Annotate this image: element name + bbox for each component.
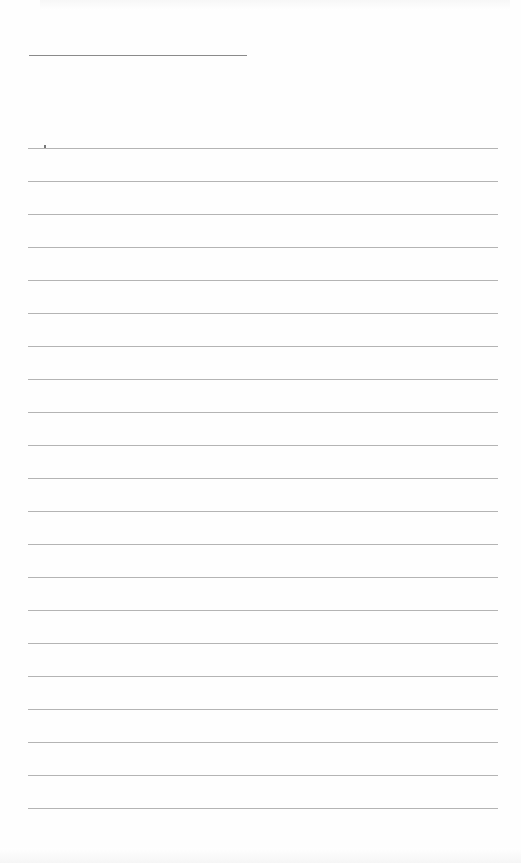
ruled-line [28, 577, 498, 578]
ruled-line [28, 445, 498, 446]
title-underline [29, 55, 247, 56]
ruled-line [28, 313, 498, 314]
ruled-line [28, 412, 498, 413]
ruled-line [28, 610, 498, 611]
ruled-line [28, 709, 498, 710]
ruled-line [28, 544, 498, 545]
ruled-line [28, 181, 498, 182]
ruled-line [28, 148, 498, 149]
ruled-line [28, 346, 498, 347]
ruled-line [28, 808, 498, 809]
lined-page [0, 0, 521, 863]
ruled-line [28, 742, 498, 743]
scan-edge-top [40, 0, 510, 10]
ruled-line [28, 676, 498, 677]
ruled-line [28, 280, 498, 281]
ruled-line [28, 643, 498, 644]
ruled-line [28, 379, 498, 380]
ruled-line [28, 511, 498, 512]
ruled-line [28, 247, 498, 248]
ruled-line [28, 775, 498, 776]
ruled-line [28, 214, 498, 215]
scan-edge-bottom [0, 848, 521, 863]
ruled-line [28, 478, 498, 479]
